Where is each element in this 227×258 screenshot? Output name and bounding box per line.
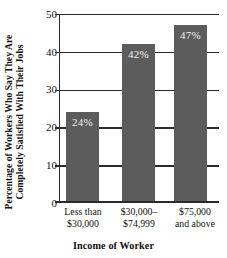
gridline-50 bbox=[59, 14, 219, 15]
plot-area: 24% 42% 47% bbox=[59, 14, 219, 203]
bar-chart-figure: Percentage of Workers Who Say They Are C… bbox=[0, 0, 227, 258]
y-tick-mark-30 bbox=[55, 90, 60, 91]
bar-value-label-3: 47% bbox=[174, 29, 207, 41]
x-axis-title: Income of Worker bbox=[0, 240, 227, 251]
y-tick-mark-40 bbox=[55, 52, 60, 53]
x-tick-label-3-line-2: and above bbox=[162, 218, 227, 230]
x-tick-label-1: Less than $30,000 bbox=[51, 206, 115, 230]
x-axis-baseline bbox=[59, 201, 219, 203]
bar-30000-to-74999: 42% bbox=[122, 44, 155, 203]
bar-value-label-1: 24% bbox=[66, 116, 99, 128]
x-tick-label-3: $75,000 and above bbox=[162, 206, 227, 230]
x-tick-label-1-line-2: $30,000 bbox=[51, 218, 115, 230]
y-axis-title: Percentage of Workers Who Say They Are C… bbox=[0, 20, 32, 225]
y-tick-mark-10 bbox=[55, 165, 60, 166]
y-tick-mark-20 bbox=[55, 127, 60, 128]
bar-75000-and-above: 47% bbox=[174, 25, 207, 203]
x-axis-tick-labels: Less than $30,000 $30,000– $74,999 $75,0… bbox=[59, 206, 219, 238]
y-axis-title-line-2: Completely Satisfied With Their Jobs bbox=[15, 44, 26, 199]
x-tick-label-1-line-1: Less than bbox=[51, 206, 115, 218]
x-tick-label-3-line-1: $75,000 bbox=[162, 206, 227, 218]
y-tick-mark-50 bbox=[55, 14, 60, 15]
bar-less-than-30000: 24% bbox=[66, 112, 99, 203]
bar-value-label-2: 42% bbox=[122, 48, 155, 60]
